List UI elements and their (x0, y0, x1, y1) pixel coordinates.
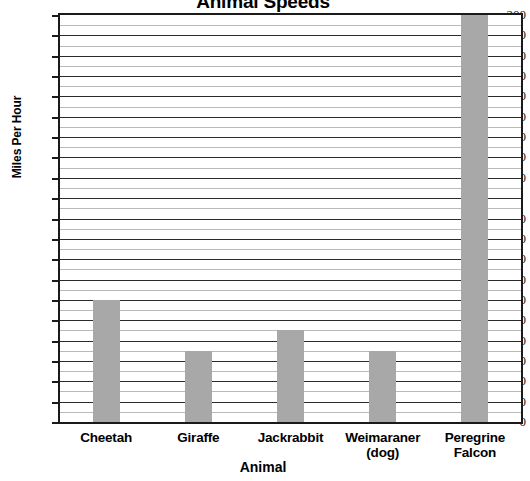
gridline-minor (60, 310, 521, 311)
gridline-minor (60, 46, 521, 47)
gridline-minor (60, 269, 521, 270)
gridline-major (60, 56, 521, 57)
x-axis-category-line: Peregrine (420, 430, 530, 445)
gridline-minor (60, 188, 521, 189)
gridline-minor (60, 25, 521, 26)
gridline-major (60, 117, 521, 118)
gridline-major (60, 300, 521, 301)
bar (93, 300, 120, 422)
gridline-minor (60, 66, 521, 67)
gridline-major (60, 137, 521, 138)
gridline-major (60, 76, 521, 77)
gridline-minor (60, 229, 521, 230)
gridline-minor (60, 107, 521, 108)
x-axis-title: Animal (0, 459, 526, 475)
gridline-major (60, 178, 521, 179)
gridline-minor (60, 208, 521, 209)
gridline-minor (60, 168, 521, 169)
gridline-minor (60, 127, 521, 128)
gridline-minor (60, 249, 521, 250)
gridline-major (60, 198, 521, 199)
gridline-minor (60, 147, 521, 148)
plot-area (58, 13, 523, 424)
chart-title: Animal Speeds (0, 0, 526, 13)
gridline-major (60, 35, 521, 36)
y-axis-title: Miles Per Hour (10, 57, 24, 217)
gridline-major (60, 157, 521, 158)
bar (185, 351, 212, 422)
bar (277, 330, 304, 422)
gridline-minor (60, 86, 521, 87)
x-axis-category-label: PeregrineFalcon (420, 430, 530, 460)
gridline-major (60, 320, 521, 321)
bar (461, 15, 488, 422)
gridline-minor (60, 290, 521, 291)
gridline-major (60, 239, 521, 240)
gridline-major (60, 280, 521, 281)
bar (369, 351, 396, 422)
gridline-major (60, 259, 521, 260)
gridline-major (60, 219, 521, 220)
gridline-major (60, 96, 521, 97)
x-axis-category-line: Falcon (420, 445, 530, 460)
